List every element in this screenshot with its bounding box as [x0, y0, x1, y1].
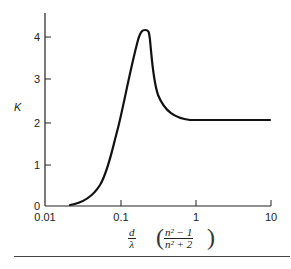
left-paren: (: [156, 225, 164, 249]
x-tick-label-1: 1: [193, 211, 199, 223]
fraction-d-over-lambda: d λ: [128, 227, 136, 250]
bottom-rule-divider: [14, 256, 290, 257]
k-curve-line: [70, 30, 270, 205]
fraction-refractive: n² − 1 n² + 2: [164, 227, 193, 250]
y-tick-label-2: 2: [34, 117, 40, 129]
right-paren: ): [207, 225, 215, 249]
x-axis-label: d λ ( n² − 1 n² + 2 ): [0, 227, 291, 251]
frac2-denominator: n² + 2: [165, 239, 192, 250]
y-tick-label-1: 1: [34, 159, 40, 171]
y-ticks: [45, 37, 51, 165]
frac1-denominator: λ: [129, 239, 134, 250]
y-axis-label: K: [14, 101, 22, 113]
y-tick-label-4: 4: [34, 31, 40, 43]
y-tick-label-3: 3: [34, 73, 40, 85]
x-tick-label-0.01: 0.01: [34, 211, 55, 223]
x-tick-label-0.1: 0.1: [113, 211, 128, 223]
x-tick-label-10: 10: [265, 211, 277, 223]
x-ticks: [121, 200, 271, 206]
